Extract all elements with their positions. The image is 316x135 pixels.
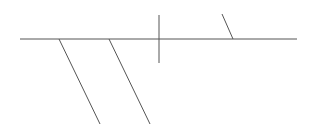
branch-1-line: [59, 39, 100, 124]
diagram-canvas: [0, 0, 316, 135]
branch-2-line: [109, 39, 150, 124]
diagram-svg: [0, 0, 316, 135]
branch-3-line: [222, 14, 233, 39]
branch-lines: [59, 14, 233, 124]
